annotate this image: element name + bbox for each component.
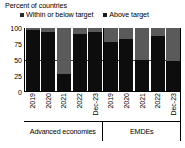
- bar-segment-within-or-below-target[interactable]: [119, 39, 133, 91]
- stacked-bar[interactable]: [151, 28, 165, 91]
- legend-swatch-icon-within: [20, 13, 24, 17]
- x-tick-slot: 2020: [41, 93, 55, 121]
- x-tick-label: 2021: [138, 93, 145, 109]
- x-tick-slot: 2022: [150, 93, 164, 121]
- legend-item-within-or-below-target: Within or below target: [20, 11, 93, 19]
- legend-item-above-target: Above target: [103, 11, 149, 19]
- bar-segment-within-or-below-target[interactable]: [151, 36, 165, 91]
- bar-segment-above-target[interactable]: [166, 28, 180, 61]
- stacked-bar[interactable]: [41, 28, 55, 91]
- legend-swatch-icon-above: [103, 13, 107, 17]
- bar-group-1: [103, 28, 181, 91]
- chart-legend: Within or below target Above target: [20, 11, 149, 19]
- x-label-group-0: 2019202020212022Dec-23: [24, 93, 103, 121]
- x-tick-label: Dec-23: [91, 93, 98, 116]
- stacked-bar[interactable]: [57, 28, 71, 91]
- bar-segment-within-or-below-target[interactable]: [135, 60, 149, 92]
- y-tick-label-75: 75: [0, 41, 22, 48]
- chart-title: Percent of countries: [5, 1, 67, 10]
- x-tick-label: 2020: [44, 93, 51, 109]
- x-tick-label: 2020: [123, 93, 130, 109]
- bar-segment-within-or-below-target[interactable]: [88, 32, 102, 91]
- y-tick-label-100: 100: [0, 25, 22, 32]
- stacked-bar[interactable]: [88, 28, 102, 91]
- stacked-bar[interactable]: [166, 28, 180, 91]
- x-tick-slot: 2019: [103, 93, 117, 121]
- group-label-advanced-economies: Advanced economies: [24, 122, 103, 141]
- bar-segment-above-target[interactable]: [104, 28, 118, 42]
- x-label-group-1: 2019202020212022Dec-23: [103, 93, 182, 121]
- y-tick-label-50: 50: [0, 57, 22, 64]
- x-tick-label: 2021: [60, 93, 67, 109]
- group-label-row: Advanced economies EMDEs: [24, 121, 181, 141]
- bar-segment-above-target[interactable]: [135, 28, 149, 60]
- x-tick-slot: Dec-23: [88, 93, 102, 121]
- x-tick-slot: 2022: [72, 93, 86, 121]
- plot-area: [24, 28, 181, 92]
- x-tick-label: Dec-23: [170, 93, 177, 116]
- bar-segment-within-or-below-target[interactable]: [26, 30, 40, 91]
- legend-label-above: Above target: [109, 11, 149, 19]
- stacked-bar[interactable]: [26, 28, 40, 91]
- group-divider: [103, 28, 104, 91]
- stacked-bar[interactable]: [135, 28, 149, 91]
- bar-segment-above-target[interactable]: [57, 28, 71, 74]
- bar-segment-within-or-below-target[interactable]: [41, 32, 55, 91]
- bar-segment-within-or-below-target[interactable]: [104, 42, 118, 91]
- stacked-bar-chart: Percent of countries Within or below tar…: [0, 0, 185, 148]
- x-tick-slot: Dec-23: [166, 93, 180, 121]
- x-tick-slot: 2020: [119, 93, 133, 121]
- x-axis-tick-labels: 2019202020212022Dec-232019202020212022De…: [24, 93, 181, 121]
- bar-segment-above-target[interactable]: [119, 28, 133, 39]
- bar-segment-within-or-below-target[interactable]: [57, 74, 71, 91]
- x-tick-label: 2022: [75, 93, 82, 109]
- bar-group-0: [25, 28, 103, 91]
- x-tick-label: 2019: [107, 93, 114, 109]
- bar-segment-within-or-below-target[interactable]: [166, 61, 180, 91]
- legend-label-within: Within or below target: [26, 11, 93, 19]
- y-axis-tick-labels: 100 75 50 25 0: [0, 28, 22, 92]
- stacked-bar[interactable]: [119, 28, 133, 91]
- x-tick-label: 2022: [154, 93, 161, 109]
- bar-segment-above-target[interactable]: [151, 28, 165, 36]
- bar-segment-within-or-below-target[interactable]: [73, 34, 87, 91]
- plot-inner: [25, 28, 181, 91]
- x-tick-slot: 2021: [56, 93, 70, 121]
- stacked-bar[interactable]: [104, 28, 118, 91]
- x-tick-label: 2019: [28, 93, 35, 109]
- group-label-emdes: EMDEs: [103, 122, 182, 141]
- x-tick-slot: 2021: [135, 93, 149, 121]
- y-tick-label-0: 0: [0, 89, 22, 96]
- stacked-bar[interactable]: [73, 28, 87, 91]
- y-tick-label-25: 25: [0, 73, 22, 80]
- x-tick-slot: 2019: [25, 93, 39, 121]
